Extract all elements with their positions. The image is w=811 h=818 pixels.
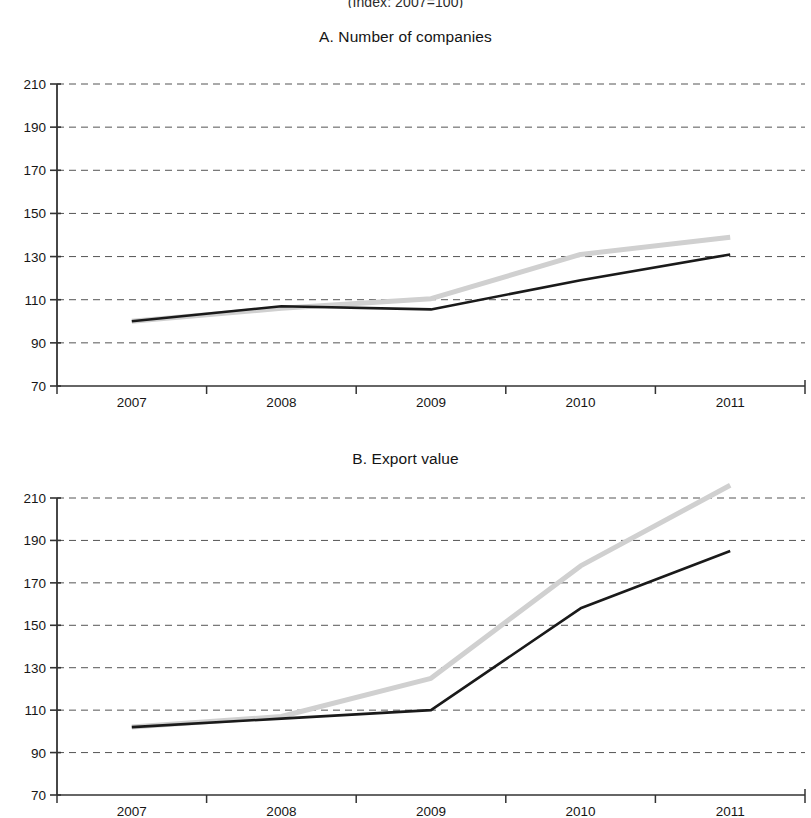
x-tick-label: 2007: [117, 804, 147, 818]
x-tick-label: 2009: [416, 804, 446, 818]
y-tick-label: 70: [2, 379, 46, 394]
y-tick-label: 150: [2, 206, 46, 221]
x-tick-label: 2008: [266, 804, 296, 818]
x-tick-label: 2010: [566, 804, 596, 818]
y-tick-label: 150: [2, 618, 46, 633]
y-tick-label: 110: [2, 703, 46, 718]
y-tick-label: 130: [2, 660, 46, 675]
series-line-dark: [132, 254, 730, 321]
y-tick-label: 190: [2, 120, 46, 135]
y-tick-label: 170: [2, 575, 46, 590]
series-line-dark: [132, 551, 730, 727]
figure-subtitle: (Index: 2007=100): [0, 0, 811, 8]
y-tick-label: 190: [2, 533, 46, 548]
series-line-light: [132, 485, 730, 727]
x-tick-label: 2011: [716, 804, 745, 818]
y-tick-label: 130: [2, 249, 46, 264]
panel-b-plot: 7090110130150170190210200720082009201020…: [0, 482, 811, 818]
y-tick-label: 210: [2, 77, 46, 92]
panel-b-canvas: [0, 482, 811, 818]
y-tick-label: 170: [2, 163, 46, 178]
panel-b-title: B. Export value: [0, 450, 811, 468]
y-tick-label: 70: [2, 788, 46, 803]
x-tick-label: 2010: [566, 395, 596, 410]
panel-a-plot: 7090110130150170190210200720082009201020…: [0, 60, 811, 395]
figure-root: (Index: 2007=100) A. Number of companies…: [0, 0, 811, 818]
x-tick-label: 2011: [716, 395, 745, 410]
panel-a-canvas: [0, 60, 811, 395]
y-tick-label: 90: [2, 335, 46, 350]
y-tick-label: 210: [2, 491, 46, 506]
panel-a-title: A. Number of companies: [0, 28, 811, 46]
y-tick-label: 110: [2, 292, 46, 307]
x-tick-label: 2008: [266, 395, 296, 410]
x-tick-label: 2009: [416, 395, 446, 410]
y-tick-label: 90: [2, 745, 46, 760]
x-tick-label: 2007: [117, 395, 147, 410]
